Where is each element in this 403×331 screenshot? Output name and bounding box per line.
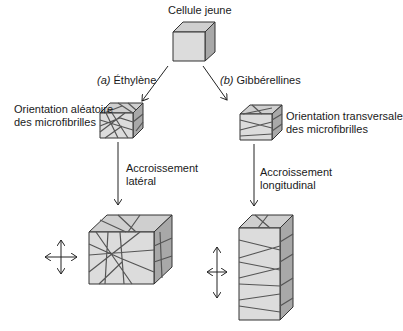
four-way-arrow-icon: [45, 240, 77, 274]
ethylene-label: (a) Éthylène: [97, 74, 156, 87]
growth-a-line2: latéral: [126, 175, 198, 188]
branch-b-hormone: Gibbérellines: [237, 74, 301, 86]
orientation-a-line1: Orientation aléatoire: [14, 103, 113, 116]
branch-b-prefix: (b): [220, 74, 233, 86]
orientation-a-line2: des microfibrilles: [14, 116, 113, 129]
orientation-b-line1: Orientation transversale: [286, 110, 403, 123]
four-way-arrow-icon: [207, 247, 227, 298]
orientation-b-line2: des microfibrilles: [286, 123, 403, 136]
growth-a-line1: Accroissement: [126, 162, 198, 175]
small-cube-transverse-fibrils: [240, 105, 282, 140]
branch-a-hormone: Éthylène: [114, 74, 157, 86]
branch-a-prefix: (a): [97, 74, 110, 86]
lateral-growth-label: Accroissement latéral: [126, 162, 198, 188]
growth-b-line1: Accroissement: [260, 166, 332, 179]
large-cube-lateral-growth: [89, 215, 172, 284]
transverse-orientation-label: Orientation transversale des microfibril…: [286, 110, 403, 136]
young-cell-cube: [173, 22, 215, 61]
gibberellins-label: (b) Gibbérellines: [220, 74, 301, 87]
growth-b-line2: longitudinal: [260, 179, 332, 192]
young-cell-text: Cellule jeune: [168, 4, 232, 16]
random-orientation-label: Orientation aléatoire des microfibrilles: [14, 103, 113, 129]
young-cell-label: Cellule jeune: [168, 4, 232, 17]
tall-prism-longitudinal-growth: [239, 215, 293, 320]
longitudinal-growth-label: Accroissement longitudinal: [260, 166, 332, 192]
